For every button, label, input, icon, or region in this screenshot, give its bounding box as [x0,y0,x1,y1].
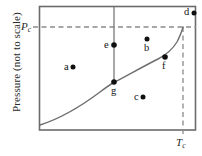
figure-root: Pressure (not to scale) Pc Tc a b c d e … [0,0,202,156]
data-point-g [111,79,117,85]
data-point-f [162,54,168,60]
pc-main-letter: P [21,20,28,32]
data-point-d [192,11,197,16]
point-label-b: b [144,42,149,53]
point-label-c: c [134,91,139,102]
pc-subscript: c [28,25,31,34]
vapor-pressure-curve [40,27,183,125]
point-label-g: g [111,85,116,96]
plot-frame [40,7,196,131]
point-label-e: e [104,39,109,50]
tc-subscript: c [182,141,185,150]
data-point-e [111,42,117,48]
data-point-a [71,65,76,70]
point-label-f: f [162,60,166,71]
critical-temperature-tick-label: Tc [176,136,185,150]
data-point-b [145,37,150,42]
critical-pressure-tick-label: Pc [21,20,31,34]
point-label-d: d [184,6,189,17]
point-label-a: a [64,61,69,72]
data-point-c [141,95,146,100]
